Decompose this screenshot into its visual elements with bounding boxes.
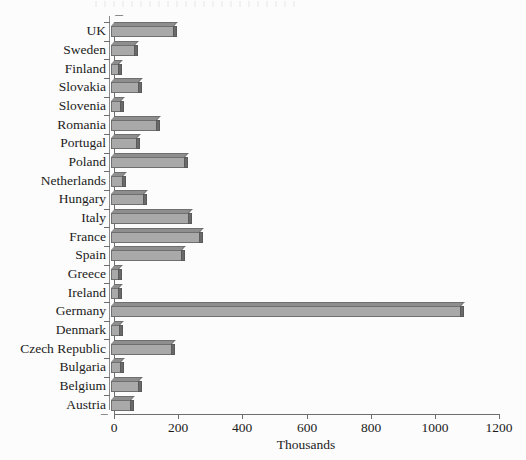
bar-front-face bbox=[111, 381, 139, 392]
bar-end-cap bbox=[130, 400, 134, 411]
bar-end-cap bbox=[134, 45, 138, 56]
bar-chart-plot: UKSwedenFinlandSlovakiaSloveniaRomaniaPo… bbox=[0, 0, 526, 460]
bar-end-cap bbox=[156, 120, 160, 131]
bar-end-cap bbox=[118, 269, 122, 280]
bar-end-cap bbox=[118, 64, 122, 75]
bar-front-face bbox=[111, 213, 189, 224]
bar bbox=[111, 302, 466, 313]
x-axis-tick bbox=[178, 414, 179, 419]
bar bbox=[111, 97, 126, 108]
bar bbox=[111, 265, 124, 276]
bar bbox=[111, 377, 144, 388]
bar-end-cap bbox=[143, 194, 147, 205]
bar-end-cap bbox=[460, 306, 464, 317]
x-axis-tick-label: 600 bbox=[297, 421, 317, 435]
bar-front-face bbox=[111, 82, 139, 93]
x-axis-title: Thousands bbox=[0, 437, 526, 453]
bar bbox=[111, 78, 144, 89]
x-axis-title-text: Thousands bbox=[277, 437, 336, 452]
bar bbox=[111, 396, 136, 407]
x-axis-tick-label: 0 bbox=[111, 421, 118, 435]
x-axis-tick-label: 1000 bbox=[422, 421, 449, 435]
bar-end-cap bbox=[171, 344, 175, 355]
bar-front-face bbox=[111, 250, 182, 261]
x-axis-tick bbox=[307, 414, 308, 419]
bar bbox=[111, 60, 124, 71]
bar-front-face bbox=[111, 306, 461, 317]
bar-end-cap bbox=[136, 138, 140, 149]
bar-front-face bbox=[111, 400, 131, 411]
x-axis-tick bbox=[499, 414, 500, 419]
bar-front-face bbox=[111, 26, 174, 37]
bar-front-face bbox=[111, 45, 135, 56]
bar bbox=[111, 284, 124, 295]
bar bbox=[111, 41, 140, 52]
x-axis-tick bbox=[435, 414, 436, 419]
bar-end-cap bbox=[173, 26, 177, 37]
x-axis-tick bbox=[114, 414, 115, 419]
x-axis-tick-label: 200 bbox=[168, 421, 188, 435]
x-axis-tick bbox=[371, 414, 372, 419]
bar bbox=[111, 321, 125, 332]
bar bbox=[111, 228, 205, 239]
bar-end-cap bbox=[119, 325, 123, 336]
chart-page: UKSwedenFinlandSlovakiaSloveniaRomaniaPo… bbox=[0, 0, 526, 460]
bar-end-cap bbox=[120, 101, 124, 112]
bar bbox=[111, 116, 162, 127]
bar bbox=[111, 172, 128, 183]
bar-end-cap bbox=[188, 213, 192, 224]
bar bbox=[111, 246, 187, 257]
bar-front-face bbox=[111, 138, 137, 149]
bar bbox=[111, 209, 194, 220]
bar-end-cap bbox=[118, 288, 122, 299]
bar-front-face bbox=[111, 194, 144, 205]
bar-end-cap bbox=[184, 157, 188, 168]
x-axis-tick-label: 800 bbox=[361, 421, 381, 435]
bar-end-cap bbox=[122, 176, 126, 187]
bar-front-face bbox=[111, 232, 200, 243]
bar bbox=[111, 134, 142, 145]
bar-end-cap bbox=[138, 381, 142, 392]
bar-end-cap bbox=[120, 362, 124, 373]
bar-end-cap bbox=[199, 232, 203, 243]
x-axis-tick bbox=[242, 414, 243, 419]
bar-front-face bbox=[111, 157, 185, 168]
bar-series bbox=[0, 0, 526, 460]
bar bbox=[111, 153, 190, 164]
x-axis-tick-label: 400 bbox=[232, 421, 252, 435]
bar-end-cap bbox=[138, 82, 142, 93]
bar-end-cap bbox=[181, 250, 185, 261]
bar bbox=[111, 340, 177, 351]
bar bbox=[111, 22, 179, 33]
bar-front-face bbox=[111, 120, 157, 131]
bar-front-face bbox=[111, 344, 172, 355]
bar bbox=[111, 190, 149, 201]
x-axis-tick-label: 1200 bbox=[486, 421, 513, 435]
bar bbox=[111, 358, 126, 369]
